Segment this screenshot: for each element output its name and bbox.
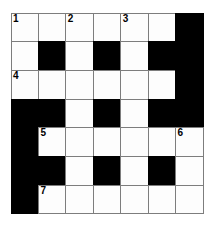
crossword-cell[interactable]	[65, 99, 93, 129]
crossword-puzzle: 1234567	[0, 0, 215, 232]
crossword-cell[interactable]: 1	[11, 13, 39, 43]
crossword-cell[interactable]	[65, 156, 93, 186]
crossword-cell[interactable]	[120, 156, 148, 186]
crossword-cell[interactable]	[120, 185, 148, 215]
crossword-cell[interactable]: 3	[120, 13, 148, 43]
crossword-cell[interactable]	[93, 185, 121, 215]
crossword-cell[interactable]	[93, 13, 121, 43]
crossword-cell[interactable]: 2	[65, 13, 93, 43]
crossword-cell-block	[175, 41, 203, 71]
crossword-cell[interactable]	[11, 41, 39, 71]
crossword-cell-block	[175, 70, 203, 100]
crossword-cell[interactable]: 7	[38, 185, 66, 215]
cell-number: 1	[13, 13, 18, 24]
crossword-cell-block	[38, 156, 66, 186]
cell-number: 3	[123, 13, 128, 24]
cell-number: 2	[68, 13, 73, 24]
crossword-cell-block	[11, 127, 39, 157]
crossword-cell[interactable]	[65, 185, 93, 215]
crossword-cell[interactable]	[175, 156, 203, 186]
crossword-cell[interactable]	[65, 127, 93, 157]
crossword-cell[interactable]	[65, 70, 93, 100]
cell-number: 4	[13, 70, 18, 81]
crossword-cell-block	[175, 13, 203, 43]
crossword-cell[interactable]	[38, 70, 66, 100]
crossword-cell[interactable]	[148, 185, 176, 215]
crossword-cell-block	[175, 99, 203, 129]
crossword-cell[interactable]	[93, 127, 121, 157]
crossword-cell[interactable]: 4	[11, 70, 39, 100]
crossword-cell-block	[11, 185, 39, 215]
cell-number: 7	[40, 185, 45, 196]
crossword-cell[interactable]	[65, 41, 93, 71]
crossword-cell[interactable]	[38, 13, 66, 43]
crossword-cell[interactable]	[93, 70, 121, 100]
crossword-cell-block	[38, 41, 66, 71]
cell-number: 5	[40, 127, 45, 138]
crossword-cell-block	[11, 156, 39, 186]
crossword-cell[interactable]	[148, 13, 176, 43]
crossword-cell[interactable]	[148, 127, 176, 157]
crossword-cell-block	[148, 41, 176, 71]
cell-number: 6	[178, 127, 183, 138]
crossword-cell[interactable]	[120, 41, 148, 71]
crossword-cell[interactable]	[148, 70, 176, 100]
crossword-cell-block	[148, 99, 176, 129]
crossword-grid: 1234567	[11, 13, 203, 214]
crossword-cell-block	[38, 99, 66, 129]
crossword-cell[interactable]	[120, 70, 148, 100]
crossword-cell[interactable]: 6	[175, 127, 203, 157]
crossword-cell[interactable]: 5	[38, 127, 66, 157]
crossword-cell-block	[93, 41, 121, 71]
crossword-cell-block	[93, 99, 121, 129]
crossword-cell-block	[93, 156, 121, 186]
crossword-cell[interactable]	[175, 185, 203, 215]
crossword-cell-block	[11, 99, 39, 129]
crossword-cell[interactable]	[120, 127, 148, 157]
crossword-cell[interactable]	[120, 99, 148, 129]
crossword-cell-block	[148, 156, 176, 186]
